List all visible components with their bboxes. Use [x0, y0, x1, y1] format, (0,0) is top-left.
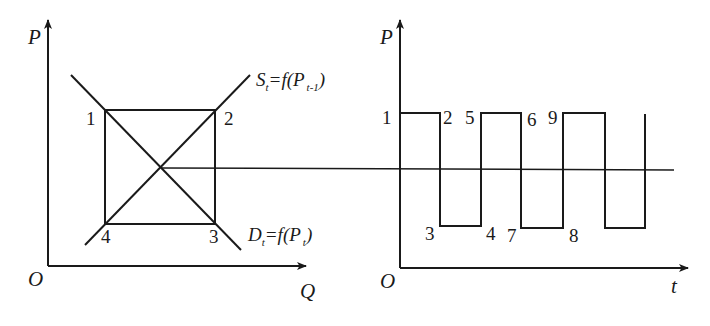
svg-text:St=f(Pt-1): St=f(Pt-1) — [256, 69, 325, 93]
left-y-axis-label: P — [27, 25, 41, 49]
time-point-label-7: 7 — [507, 225, 517, 246]
corner-label-1: 1 — [86, 108, 96, 129]
time-point-label-4: 4 — [486, 223, 496, 244]
right-x-axis-label: t — [671, 274, 678, 298]
equilibrium-price-line — [161, 168, 674, 170]
corner-label-4: 4 — [101, 226, 111, 247]
right-origin-label: O — [380, 269, 395, 293]
cobweb-diagram: P O Q 1 2 3 4 St=f(Pt-1) Dt=f(Pt) P O t — [0, 0, 710, 326]
left-x-axis-label: Q — [300, 279, 315, 303]
corner-label-3: 3 — [209, 226, 219, 247]
time-point-label-3: 3 — [425, 223, 435, 244]
right-panel-price-time: P O t 1 2 5 6 9 3 4 7 8 — [379, 20, 688, 298]
time-point-label-1: 1 — [382, 107, 392, 128]
time-point-label-9: 9 — [548, 107, 558, 128]
price-oscillation-path — [400, 113, 645, 228]
svg-text:Dt=f(Pt): Dt=f(Pt) — [247, 224, 312, 248]
demand-curve-label: Dt=f(Pt) — [247, 224, 312, 248]
right-y-axis-label: P — [379, 25, 393, 49]
supply-curve-label: St=f(Pt-1) — [256, 69, 325, 93]
left-origin-label: O — [28, 267, 43, 291]
left-panel-price-quantity: P O Q 1 2 3 4 St=f(Pt-1) Dt=f(Pt) — [27, 20, 674, 303]
corner-label-2: 2 — [224, 108, 234, 129]
time-point-label-8: 8 — [569, 225, 579, 246]
time-point-label-5: 5 — [465, 107, 475, 128]
time-point-label-2: 2 — [443, 107, 453, 128]
supply-curve — [85, 75, 250, 245]
time-point-label-6: 6 — [527, 109, 537, 130]
